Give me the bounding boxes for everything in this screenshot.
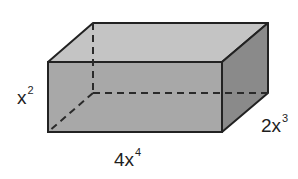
depth-variable: x <box>272 115 282 136</box>
height-exponent: 2 <box>28 84 34 96</box>
depth-coefficient: 2 <box>261 115 272 136</box>
prism-figure <box>0 0 298 179</box>
depth-label: 2x3 <box>261 116 288 135</box>
length-label: 4x4 <box>114 150 141 169</box>
front-face <box>48 62 222 132</box>
height-label: x2 <box>17 88 34 107</box>
length-exponent: 4 <box>135 146 141 158</box>
prism-diagram: x2 2x3 4x4 <box>0 0 298 179</box>
height-variable: x <box>17 87 27 108</box>
depth-exponent: 3 <box>282 112 288 124</box>
length-variable: x <box>125 149 135 170</box>
length-coefficient: 4 <box>114 149 125 170</box>
